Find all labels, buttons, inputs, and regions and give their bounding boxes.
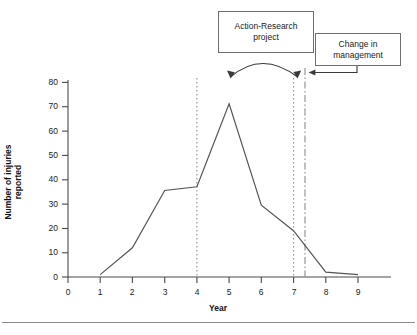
y-tick-label-50: 50	[38, 150, 58, 160]
y-tick-label-0: 0	[38, 272, 58, 282]
x-tick-label-5: 5	[220, 287, 238, 297]
x-tick-label-8: 8	[317, 287, 335, 297]
y-tick-label-10: 10	[38, 247, 58, 257]
x-tick-label-7: 7	[285, 287, 303, 297]
callout-action-research: Action-Research project	[218, 11, 314, 53]
y-tick-label-80: 80	[38, 77, 58, 87]
data-series-line	[100, 104, 358, 275]
callout-change-in-management: Change in management	[315, 33, 401, 66]
chart-figure: 80 70 60 50 40 30 20 10 0 0 1 2 3 4 5 6 …	[0, 0, 417, 335]
x-axis-title: Year	[196, 303, 240, 313]
y-tick-label-60: 60	[38, 126, 58, 136]
x-tick-label-4: 4	[188, 287, 206, 297]
x-tick-label-0: 0	[59, 287, 77, 297]
bottom-divider	[2, 322, 415, 323]
x-tick-label-1: 1	[91, 287, 109, 297]
y-axis-ticks	[62, 82, 68, 277]
x-axis-ticks	[68, 277, 358, 283]
y-tick-label-20: 20	[38, 223, 58, 233]
y-tick-label-30: 30	[38, 199, 58, 209]
x-tick-label-3: 3	[156, 287, 174, 297]
leader-arrow-change-management	[309, 66, 357, 76]
span-arrow-action-research	[227, 64, 301, 79]
y-tick-label-70: 70	[38, 101, 58, 111]
x-tick-label-9: 9	[349, 287, 367, 297]
x-tick-label-6: 6	[252, 287, 270, 297]
y-tick-label-40: 40	[38, 174, 58, 184]
x-tick-label-2: 2	[123, 287, 141, 297]
y-axis-title: Number of injuries reported	[3, 127, 23, 237]
